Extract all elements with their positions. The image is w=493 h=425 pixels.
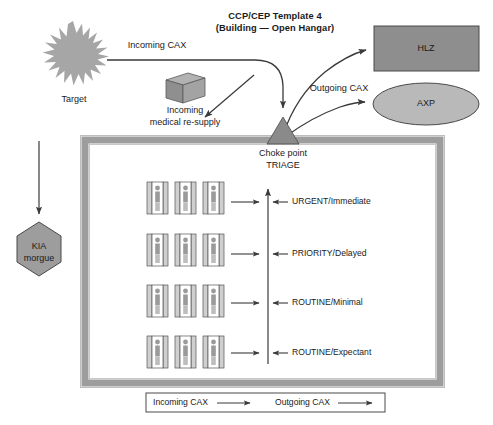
kia-label-line1: KIA xyxy=(32,241,47,252)
outgoing-cax-label: Outgoing CAX xyxy=(310,83,369,94)
litter-feeder-arrows xyxy=(231,202,259,353)
legend-outgoing-label: Outgoing CAX xyxy=(275,397,330,407)
kia-label-line2: morgue xyxy=(24,253,55,264)
target-label: Target xyxy=(61,94,86,105)
litter-icon xyxy=(147,285,224,317)
supply-box-icon xyxy=(166,73,205,103)
diagram-graphics xyxy=(0,0,493,425)
resupply-label-line2: medical re-supply xyxy=(150,117,221,128)
litter-grid xyxy=(147,182,224,368)
incoming-cax-label: Incoming CAX xyxy=(128,40,187,51)
outgoing-cax-axp-arrow xyxy=(285,102,365,137)
triage-label-routine-minimal: ROUTINE/Minimal xyxy=(292,297,363,307)
litter-icon xyxy=(147,182,224,214)
litter-icon xyxy=(147,336,224,368)
choke-point-label-line2: TRIAGE xyxy=(266,160,300,171)
diagram-canvas: CCP/CEP Template 4 (Building — Open Hang… xyxy=(0,0,493,425)
hlz-label: HLZ xyxy=(417,43,434,54)
page-title-line1: CCP/CEP Template 4 xyxy=(228,11,321,22)
resupply-label-line1: Incoming xyxy=(167,105,204,116)
triage-label-routine-expectant: ROUTINE/Expectant xyxy=(292,347,371,357)
building-outline xyxy=(81,136,445,388)
triage-label-priority: PRIORITY/Delayed xyxy=(292,248,367,258)
legend-incoming-label: Incoming CAX xyxy=(153,397,208,407)
resupply-arrow xyxy=(205,75,254,117)
triage-category-arrows xyxy=(273,202,288,353)
litter-icon xyxy=(147,234,224,266)
target-starburst-icon xyxy=(43,21,110,86)
axp-label: AXP xyxy=(417,98,435,109)
page-title-line2: (Building — Open Hangar) xyxy=(216,23,335,34)
choke-point-label-line1: Choke point xyxy=(259,148,307,159)
triage-label-urgent: URGENT/Immediate xyxy=(292,196,371,206)
